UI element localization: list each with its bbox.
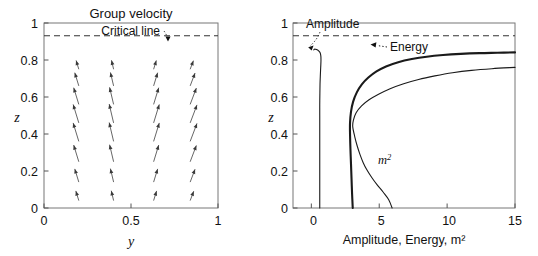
figure-root: Group velocity 0 0.2 0.4 0.6 0.8 1	[0, 0, 538, 256]
left-ytick-0_8: 0.8	[21, 54, 38, 68]
left-ytick-0_4: 0.4	[21, 128, 38, 142]
right-ytick-0_2: 0.2	[271, 165, 288, 179]
right-ytick-1: 1	[281, 17, 288, 31]
right-panel-profiles: 0 0.2 0.4 0.6 0.8 1 0 5 10 15 Amplitude,…	[265, 0, 538, 256]
right-ytick-0: 0	[281, 202, 288, 216]
amplitude-annotation-label: Amplitude	[306, 17, 360, 31]
right-yaxis-label: z	[267, 110, 274, 125]
left-plot-frame	[44, 23, 218, 208]
left-xtick-0: 0	[41, 214, 48, 228]
right-ytick-0_6: 0.6	[271, 91, 288, 105]
right-xtick-0: 0	[310, 214, 317, 228]
left-ytick-0: 0	[31, 202, 38, 216]
energy-annotation-label: Energy	[390, 40, 428, 54]
left-panel-title: Group velocity	[89, 6, 173, 21]
right-xaxis-label: Amplitude, Energy, m²	[343, 233, 466, 247]
right-ytick-0_8: 0.8	[271, 54, 288, 68]
left-yaxis-label: z	[13, 110, 20, 125]
left-panel-svg: Group velocity 0 0.2 0.4 0.6 0.8 1	[0, 0, 265, 256]
left-xtick-0_5: 0.5	[122, 214, 139, 228]
left-xtick-1: 1	[215, 214, 222, 228]
right-xtick-15: 15	[508, 214, 522, 228]
left-ytick-0_6: 0.6	[21, 91, 38, 105]
left-panel-group-velocity: Group velocity 0 0.2 0.4 0.6 0.8 1	[0, 0, 265, 256]
left-ytick-0_2: 0.2	[21, 165, 38, 179]
left-ytick-1: 1	[31, 17, 38, 31]
right-ytick-0_4: 0.4	[271, 128, 288, 142]
critical-line-annotation-label: Critical line	[101, 24, 160, 38]
left-xaxis-label: y	[126, 234, 135, 249]
right-xtick-5: 5	[378, 214, 385, 228]
right-panel-svg: 0 0.2 0.4 0.6 0.8 1 0 5 10 15 Amplitude,…	[265, 0, 538, 256]
right-xtick-10: 10	[442, 214, 456, 228]
